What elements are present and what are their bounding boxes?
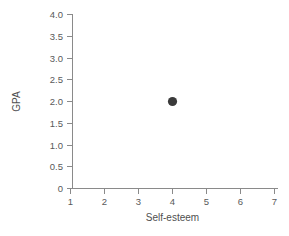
y-tick-label: 4.0 (50, 9, 63, 20)
chart-background (0, 0, 289, 236)
y-tick-label: 1.0 (50, 140, 63, 151)
y-axis-title: GPA (11, 91, 22, 112)
y-tick-label: 2.0 (50, 96, 63, 107)
scatter-chart-figure: 4.0 3.5 3.0 2.5 2.0 1.5 1.0 0.5 0 1 2 3 … (0, 0, 289, 236)
y-axis-tick-labels: 4.0 3.5 3.0 2.5 2.0 1.5 1.0 0.5 0 (50, 9, 63, 194)
data-point[interactable] (168, 97, 177, 106)
data-series-observation (168, 97, 177, 106)
x-tick-label: 3 (136, 196, 141, 207)
y-tick-label: 1.5 (50, 118, 63, 129)
y-tick-label: 0 (58, 183, 63, 194)
x-tick-label: 5 (204, 196, 209, 207)
plot-canvas: 4.0 3.5 3.0 2.5 2.0 1.5 1.0 0.5 0 1 2 3 … (0, 0, 289, 236)
x-axis-title: Self-esteem (146, 212, 199, 223)
x-tick-label: 1 (68, 196, 73, 207)
y-tick-label: 0.5 (50, 161, 63, 172)
x-tick-label: 4 (170, 196, 175, 207)
x-tick-label: 7 (272, 196, 277, 207)
x-tick-label: 2 (102, 196, 107, 207)
x-tick-label: 6 (238, 196, 243, 207)
y-tick-label: 3.5 (50, 31, 63, 42)
y-tick-label: 3.0 (50, 53, 63, 64)
y-tick-label: 2.5 (50, 74, 63, 85)
